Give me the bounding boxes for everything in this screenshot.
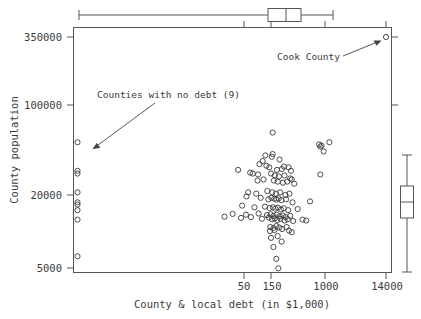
scatter-point [236,167,241,172]
zero-debt-point [75,217,80,222]
scatter-point [252,205,257,210]
scatter-point [268,235,273,240]
x-tick-label-14000: 14000 [371,280,403,292]
scatter-point [271,244,276,249]
right-axis-ticks [392,37,399,105]
x-tick-label-50: 50 [238,280,251,292]
scatter-point [304,218,309,223]
scatter-point [263,153,268,158]
scatter-point [277,157,282,162]
scatter-point [274,167,279,172]
scatter-point [257,162,262,167]
scatter-point [238,215,243,220]
scatter-point [321,149,326,154]
zero-debt-point [75,190,80,195]
top-axis-ticks [244,21,386,28]
scatter-point [230,211,235,216]
scatter-point [292,181,297,186]
scatter-point [279,239,284,244]
scatter-point [275,233,280,238]
zero-debt-point [75,208,80,213]
right-marginal-boxplot [401,155,414,272]
scatter-point [260,158,265,163]
x-tick-label-150: 150 [263,280,282,292]
scatter-plot-with-marginal-boxplots: 350000 100000 20000 5000 50 150 1000 140… [0,0,421,319]
y-axis-title: County population [8,96,20,203]
scatter-point [327,140,332,145]
scatter-point [255,172,260,177]
scatter-point [274,256,279,261]
scatter-point [270,130,275,135]
scatter-point [254,191,259,196]
scatter-points-layer [222,34,389,271]
scatter-point [300,217,305,222]
y-tick-label-20000: 20000 [30,189,62,201]
scatter-point [255,178,260,183]
scatter-point [261,177,266,182]
top-marginal-boxplot [79,9,333,22]
x-axis-title: County & local debt (in $1,000) [134,298,330,310]
annotation-no-debt: Counties with no debt (9) [92,89,240,149]
scatter-point [276,266,281,271]
x-axis-ticks [244,273,386,280]
scatter-point [248,215,253,220]
scatter-point [291,218,296,223]
scatter-point [222,214,227,219]
scatter-point [258,195,263,200]
scatter-point [295,206,300,211]
scatter-point [265,188,270,193]
chart-root: 350000 100000 20000 5000 50 150 1000 140… [0,0,421,319]
y-tick-label-350000: 350000 [24,31,62,43]
scatter-point [307,199,312,204]
plot-frame [74,28,392,273]
annotation-cook-county-label: Cook County [277,51,340,62]
annotation-cook-county: Cook County [277,40,381,62]
y-tick-label-100000: 100000 [24,99,62,111]
zero-debt-point [75,254,80,259]
zero-debt-points-layer [75,140,80,259]
scatter-point [286,208,291,213]
x-tick-label-1000: 1000 [313,280,338,292]
scatter-point [290,200,295,205]
scatter-point [243,212,248,217]
scatter-point [259,216,264,221]
zero-debt-point [75,140,80,145]
scatter-point [240,203,245,208]
y-axis-ticks [67,37,74,268]
annotation-no-debt-label: Counties with no debt (9) [97,89,240,100]
scatter-point [256,211,261,216]
scatter-point [318,172,323,177]
scatter-point [282,173,287,178]
y-tick-label-5000: 5000 [37,262,62,274]
scatter-point [383,34,388,39]
